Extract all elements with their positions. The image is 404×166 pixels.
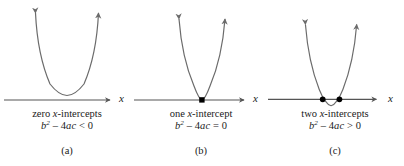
panel-a: zero x-intercepts b2 – 4ac < 0 (a)	[0, 0, 134, 166]
panel-c-plot	[268, 0, 402, 112]
x-axis-label-c: x	[388, 92, 393, 104]
panel-a-intercept-text: zero x-intercepts	[0, 108, 134, 120]
panel-c-intercept-text: two x-intercepts	[268, 108, 402, 120]
panel-c-letter: (c)	[268, 145, 402, 157]
panel-c-formula-relation: > 0	[344, 120, 361, 131]
intercept-point-c-left	[320, 96, 326, 102]
panel-a-intercept-suffix: -intercepts	[58, 108, 102, 119]
panel-b-plot	[134, 0, 268, 112]
panel-b-intercept-suffix: -intercept	[192, 108, 232, 119]
parabola-curve-a	[36, 13, 99, 96]
panel-b-intercept-prefix: one	[170, 108, 188, 119]
panel-a-formula-minus4: – 4	[50, 120, 66, 131]
panel-b-formula-relation: = 0	[210, 120, 227, 131]
panel-c-intercept-suffix: -intercepts	[324, 108, 368, 119]
x-axis-label-b: x	[253, 92, 258, 104]
x-axis-label-a: x	[119, 92, 124, 104]
panel-a-plot	[0, 0, 134, 112]
panel-c-caption: two x-intercepts b2 – 4ac > 0	[268, 108, 402, 133]
panel-c-formula-ac: ac	[334, 120, 344, 131]
intercept-point-b	[199, 97, 204, 102]
panel-c-formula: b2 – 4ac > 0	[268, 120, 402, 132]
panel-b-formula: b2 – 4ac = 0	[134, 120, 268, 132]
panel-c-formula-minus4: – 4	[318, 120, 334, 131]
panel-a-caption: zero x-intercepts b2 – 4ac < 0	[0, 108, 134, 133]
panel-a-formula-relation: < 0	[76, 120, 93, 131]
panel-b-caption: one x-intercept b2 – 4ac = 0	[134, 108, 268, 133]
parabola-curve-c	[305, 24, 356, 105]
panel-b-formula-minus4: – 4	[184, 120, 200, 131]
panel-a-formula-ac: ac	[66, 120, 76, 131]
panel-b-intercept-text: one x-intercept	[134, 108, 268, 120]
panel-b: one x-intercept b2 – 4ac = 0 (b)	[134, 0, 268, 166]
panel-a-formula: b2 – 4ac < 0	[0, 120, 134, 132]
discriminant-figure: zero x-intercepts b2 – 4ac < 0 (a) one x…	[0, 0, 404, 166]
panel-a-letter: (a)	[0, 145, 134, 157]
panel-a-intercept-prefix: zero	[32, 108, 53, 119]
intercept-point-c-right	[337, 96, 343, 102]
parabola-curve-b	[179, 19, 225, 100]
panel-c-intercept-prefix: two	[301, 108, 319, 119]
panel-c: two x-intercepts b2 – 4ac > 0 (c)	[268, 0, 402, 166]
panel-b-formula-ac: ac	[200, 120, 210, 131]
panel-b-letter: (b)	[134, 145, 268, 157]
